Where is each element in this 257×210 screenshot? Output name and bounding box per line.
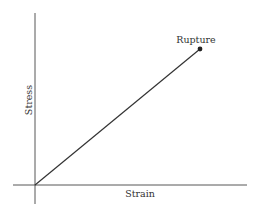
stress-strain-line (35, 49, 200, 185)
y-axis-label: Stress (23, 85, 34, 115)
rupture-point (198, 47, 203, 52)
x-axis-label: Strain (125, 188, 155, 199)
stress-strain-diagram: Rupture Strain Stress (0, 0, 257, 210)
rupture-label: Rupture (176, 34, 216, 45)
